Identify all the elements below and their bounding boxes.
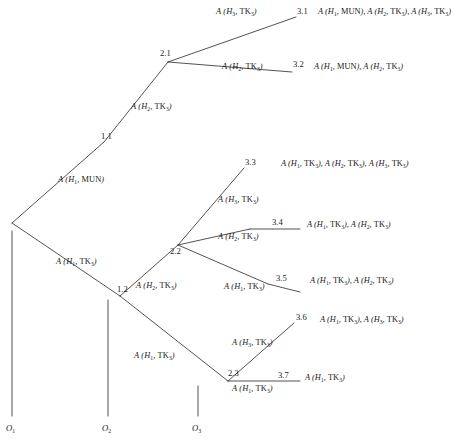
- node-3-7: 3.7: [278, 371, 289, 380]
- branch-label-n12-to-22: A (H2, TK3): [136, 282, 177, 291]
- branch-label-n21-to-31: A (H3, TK3): [216, 8, 257, 17]
- node-1-1: 1.1: [101, 132, 112, 141]
- node-2-1: 2.1: [160, 49, 171, 58]
- branch-label-n22-to-35: A (H1, TK3): [224, 283, 265, 292]
- branch-label-n21-to-32: A (H2, TK3): [222, 63, 263, 72]
- node-2-3: 2.3: [228, 369, 239, 378]
- outcome-3-2: A (H1, MUN), A (H2, TK3): [314, 63, 403, 72]
- branch-label-root-lower: A (H1, TK3): [56, 258, 97, 267]
- axis-label-o2: O2: [102, 423, 111, 434]
- branch-label-n12-to-23: A (H1, TK3): [134, 352, 175, 361]
- outcome-3-3: A (H1, TK3), A (H2, TK3), A (H3, TK3): [281, 160, 408, 169]
- node-1-2: 1.2: [117, 285, 128, 294]
- outcome-3-7: A (H1, TK3): [305, 374, 345, 383]
- node-3-1: 3.1: [297, 7, 308, 16]
- branch-label-n23-to-37: A (H1, TK3): [232, 385, 273, 394]
- axis-label-o1: O1: [6, 423, 15, 434]
- outcome-3-6: A (H1, TK3), A (H3, TK3): [320, 316, 404, 325]
- outcome-3-5: A (H1, TK3), A (H2, TK3): [310, 277, 394, 286]
- node-3-4: 3.4: [272, 218, 283, 227]
- branch-label-n22-to-34: A (H2, TK3): [218, 233, 259, 242]
- node-3-2: 3.2: [293, 60, 304, 69]
- branch-label-n22-to-33: A (H3, TK3): [218, 196, 259, 205]
- decision-tree-diagram: 1.1 1.2 2.1 2.2 2.3 3.1 3.2 3.3 3.4 3.5 …: [0, 0, 468, 443]
- node-3-3: 3.3: [245, 158, 256, 167]
- node-2-2: 2.2: [170, 247, 181, 256]
- outcome-3-4: A (H1, TK3), A (H2, TK3): [307, 221, 391, 230]
- branch-label-n23-to-36: A (H3, TK3): [232, 339, 273, 348]
- branch-label-root-upper: A (H1, MUN): [58, 176, 104, 185]
- axis-label-o3: O3: [192, 423, 201, 434]
- node-3-6: 3.6: [296, 313, 307, 322]
- node-3-5: 3.5: [276, 274, 287, 283]
- branch-label-n11-to-21: A (H2, TK3): [131, 103, 172, 112]
- outcome-3-1: A (H1, MUN), A (H2, TK3), A (H3, TK3): [318, 8, 451, 17]
